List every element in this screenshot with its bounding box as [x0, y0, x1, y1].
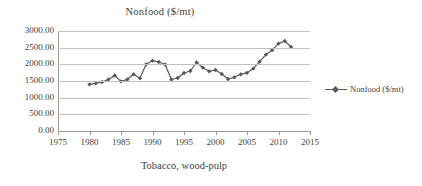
plot-area	[58, 31, 310, 131]
y-axis-tick-label: 1500.00	[2, 75, 54, 85]
gridline	[58, 64, 310, 65]
gridline	[58, 31, 310, 32]
legend-marker-icon	[325, 85, 347, 94]
gridline	[58, 81, 310, 82]
y-axis-tick-labels: 0.00500.001000.001500.002000.002500.0030…	[0, 0, 54, 186]
x-axis-title: Tobacco, wood-pulp	[58, 160, 310, 171]
x-axis-tick-mark	[216, 131, 217, 135]
legend-item-label: Nonfood ($/mt)	[350, 84, 404, 94]
gridline	[58, 48, 310, 49]
x-axis-tick-mark	[279, 131, 280, 135]
y-axis-tick-label: 500.00	[2, 108, 54, 118]
y-axis-tick-label: 2500.00	[2, 42, 54, 52]
x-axis-tick-mark	[153, 131, 154, 135]
x-axis-tick-mark	[121, 131, 122, 135]
x-axis-tick-mark	[184, 131, 185, 135]
x-axis-tick-label: 2015	[290, 137, 330, 147]
data-point-marker	[232, 75, 236, 79]
y-axis-tick-label: 0.00	[2, 125, 54, 135]
x-axis-tick-mark	[90, 131, 91, 135]
gridline	[58, 114, 310, 115]
chart-container: Nonfood ($/mt) 0.00500.001000.001500.002…	[0, 0, 422, 186]
y-axis-tick-label: 2000.00	[2, 58, 54, 68]
x-axis-tick-mark	[310, 131, 311, 135]
y-axis-tick-label: 1000.00	[2, 92, 54, 102]
data-point-marker	[87, 82, 91, 86]
data-point-marker	[239, 72, 243, 76]
x-axis-tick-mark	[247, 131, 248, 135]
gridline	[58, 98, 310, 99]
chart-legend: Nonfood ($/mt)	[325, 84, 404, 94]
x-axis-tick-mark	[58, 131, 59, 135]
y-axis-tick-label: 3000.00	[2, 25, 54, 35]
